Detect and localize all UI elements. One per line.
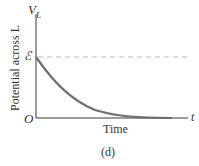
panel-label: (d) [101, 145, 115, 160]
decay-curve [36, 57, 172, 118]
emf-label: ℰ [24, 49, 31, 64]
y-axis-symbol: VL [28, 2, 41, 20]
x-axis-label: Time [103, 122, 128, 137]
plot-canvas [0, 0, 199, 166]
origin-label: O [24, 111, 33, 127]
y-axis-label: Potential across L [8, 25, 23, 111]
t-axis-symbol: t [191, 110, 194, 125]
